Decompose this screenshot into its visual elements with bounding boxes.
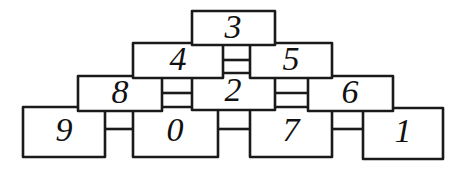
node-label-9: 9 bbox=[56, 111, 73, 148]
node-label-0: 0 bbox=[167, 111, 184, 148]
node-group-row-3 bbox=[23, 107, 443, 159]
diagram-canvas: 3 4 5 8 2 6 9 0 7 1 bbox=[0, 0, 465, 173]
node-label-3: 3 bbox=[224, 8, 242, 45]
node-label-8: 8 bbox=[112, 73, 129, 110]
node-label-5: 5 bbox=[283, 40, 300, 77]
node-label-1: 1 bbox=[395, 112, 412, 149]
node-label-4: 4 bbox=[170, 40, 187, 77]
node-label-6: 6 bbox=[342, 73, 359, 110]
node-label-7: 7 bbox=[283, 111, 302, 148]
node-label-2: 2 bbox=[225, 71, 242, 108]
box-pyramid-diagram: 3 4 5 8 2 6 9 0 7 1 bbox=[0, 0, 465, 173]
